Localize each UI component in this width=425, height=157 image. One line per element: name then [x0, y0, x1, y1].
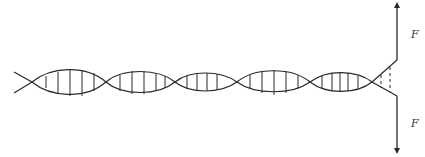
strand-a	[32, 70, 372, 93]
left-strand-ends	[14, 72, 32, 93]
strand-b	[32, 71, 372, 95]
force-label-top: F	[411, 28, 419, 41]
force-label-bottom: F	[411, 117, 419, 130]
unzipped-ends	[372, 60, 397, 96]
dna-helix-diagram	[0, 0, 425, 157]
